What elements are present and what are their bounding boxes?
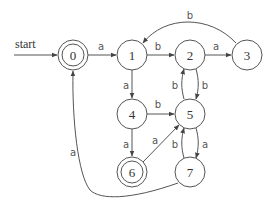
transition-label: b — [155, 41, 161, 52]
transition-label: a — [213, 41, 219, 52]
state-3: 3 — [232, 40, 262, 70]
state-0: 0 — [58, 40, 88, 70]
start-arrow: start — [14, 37, 57, 55]
start-label: start — [15, 37, 36, 51]
transition-0-1: a — [88, 41, 116, 56]
transition-label: a — [123, 139, 129, 150]
transition-label: b — [202, 80, 208, 91]
state-label: 1 — [129, 48, 136, 63]
state-label: 0 — [70, 48, 77, 63]
state-label: 7 — [187, 165, 194, 180]
transition-5-7: a — [196, 128, 208, 158]
transition-4-5: b — [147, 99, 174, 115]
state-1: 1 — [117, 40, 147, 70]
state-2: 2 — [175, 40, 205, 70]
transition-label: b — [172, 139, 178, 150]
transition-label: a — [123, 80, 129, 91]
transition-1-4: a — [123, 70, 132, 98]
transition-label: a — [98, 41, 104, 52]
state-label: 5 — [187, 107, 194, 122]
transition-label: a — [70, 147, 76, 158]
state-label: 6 — [129, 165, 136, 180]
transition-4-6: a — [123, 129, 132, 156]
transition-2-3: a — [205, 41, 231, 56]
state-label: 2 — [187, 48, 194, 63]
transition-2-5: b — [196, 69, 208, 99]
state-6: 6 — [117, 157, 147, 187]
transition-7-5: b — [172, 128, 184, 158]
transition-label: a — [152, 135, 158, 146]
state-4: 4 — [117, 99, 147, 129]
transition-label: b — [155, 99, 161, 110]
transition-label: b — [172, 80, 178, 91]
transition-1-2: b — [147, 41, 174, 56]
state-7: 7 — [175, 157, 205, 187]
transition-3-1: b — [143, 10, 236, 44]
automaton-diagram: start a b a b a b a a b b — [0, 0, 276, 204]
transition-label: b — [187, 10, 193, 21]
transition-5-2: b — [172, 69, 184, 99]
transition-label: a — [202, 139, 208, 150]
state-label: 4 — [129, 107, 136, 122]
state-5: 5 — [175, 99, 205, 129]
state-label: 3 — [244, 48, 251, 63]
